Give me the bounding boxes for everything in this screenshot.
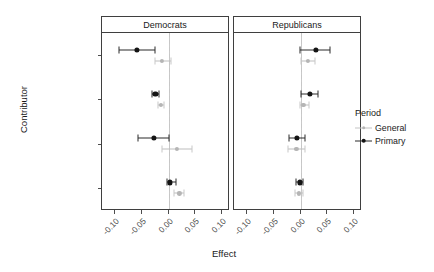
- x-axis-title: Effect: [96, 248, 352, 259]
- confidence-interval-cap: [300, 46, 301, 53]
- confidence-interval-cap: [302, 179, 303, 186]
- data-point: [177, 191, 181, 195]
- x-tick-mark: [168, 210, 169, 214]
- panel-header-democrats: Democrats: [101, 16, 229, 33]
- x-tick-label: 0.05: [176, 216, 201, 241]
- confidence-interval-cap: [330, 46, 331, 53]
- x-tick-mark: [246, 210, 247, 214]
- data-point: [153, 91, 158, 96]
- x-tick-mark: [221, 210, 222, 214]
- x-tick-label: -0.10: [228, 216, 253, 241]
- x-tick-mark: [326, 210, 327, 214]
- x-tick-mark: [194, 210, 195, 214]
- panel-header-republicans: Republicans: [233, 16, 361, 33]
- panel-header-label: Democrats: [143, 20, 187, 30]
- confidence-interval-cap: [154, 57, 155, 64]
- x-tick-mark: [273, 210, 274, 214]
- confidence-interval-cap: [168, 135, 169, 142]
- confidence-interval-cap: [314, 57, 315, 64]
- confidence-interval-cap: [191, 146, 192, 153]
- data-point: [159, 103, 163, 107]
- legend-title: Period: [355, 108, 433, 118]
- confidence-interval-cap: [288, 135, 289, 142]
- data-point: [134, 47, 139, 52]
- x-tick-label: 0.10: [335, 216, 360, 241]
- confidence-interval-cap: [304, 135, 305, 142]
- data-point: [307, 91, 312, 96]
- data-point: [160, 59, 164, 63]
- x-tick-label: -0.05: [255, 216, 280, 241]
- x-tick-label: 0.00: [149, 216, 174, 241]
- confidence-interval-cap: [171, 57, 172, 64]
- data-point: [306, 59, 310, 63]
- confidence-interval-cap: [300, 57, 301, 64]
- confidence-interval-cap: [174, 190, 175, 197]
- confidence-interval-cap: [287, 146, 288, 153]
- legend-item-general[interactable]: General: [355, 121, 433, 134]
- y-axis-tick-labels: IGAsIdeo/issue PACsParty insidersParty C…: [0, 0, 96, 272]
- x-tick-label: 0.00: [281, 216, 306, 241]
- forest-plot-chart: Contributor IGAsIdeo/issue PACsParty ins…: [0, 0, 434, 272]
- x-tick-mark: [114, 210, 115, 214]
- confidence-interval-cap: [164, 101, 165, 108]
- confidence-interval-cap: [162, 146, 163, 153]
- x-tick-label: 0.05: [308, 216, 333, 241]
- x-tick-label: -0.05: [123, 216, 148, 241]
- confidence-interval-cap: [302, 190, 303, 197]
- panel-plot-republicans: [233, 33, 361, 210]
- data-point: [175, 147, 179, 151]
- data-point: [294, 136, 299, 141]
- confidence-interval-cap: [318, 90, 319, 97]
- x-tick-mark: [300, 210, 301, 214]
- panel-header-label: Republicans: [272, 20, 322, 30]
- panel-plot-democrats: [101, 33, 229, 210]
- data-point: [151, 136, 156, 141]
- x-tick-mark: [141, 210, 142, 214]
- confidence-interval-cap: [119, 46, 120, 53]
- legend-label: General: [375, 123, 406, 133]
- data-point: [167, 180, 172, 185]
- confidence-interval-cap: [304, 146, 305, 153]
- legend-key-general-icon: [355, 121, 372, 134]
- confidence-interval-cap: [308, 101, 309, 108]
- confidence-interval-cap: [300, 90, 301, 97]
- data-point: [313, 47, 318, 52]
- legend-item-primary[interactable]: Primary: [355, 134, 433, 147]
- legend: Period General Primary: [355, 108, 433, 147]
- confidence-interval-cap: [184, 190, 185, 197]
- confidence-interval-cap: [154, 46, 155, 53]
- x-tick-label: -0.10: [96, 216, 121, 241]
- legend-label: Primary: [375, 136, 405, 146]
- x-tick-label: 0.10: [203, 216, 228, 241]
- data-point: [301, 103, 305, 107]
- data-point: [294, 147, 298, 151]
- confidence-interval-cap: [137, 135, 138, 142]
- x-tick-mark: [353, 210, 354, 214]
- legend-key-primary-icon: [355, 134, 372, 147]
- confidence-interval-cap: [175, 179, 176, 186]
- confidence-interval-cap: [295, 190, 296, 197]
- confidence-interval-cap: [159, 90, 160, 97]
